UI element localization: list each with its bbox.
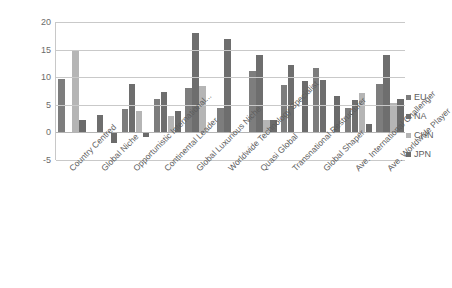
bar-eu <box>345 108 351 132</box>
bar-na <box>224 39 230 133</box>
bar-group <box>183 22 215 160</box>
bar-chn <box>359 93 365 132</box>
bar-na <box>383 55 389 133</box>
bar-group <box>374 22 406 160</box>
gridline-15 <box>56 50 405 51</box>
bar-eu <box>249 71 255 133</box>
legend-label: CHN <box>414 131 434 140</box>
bar-eu <box>122 109 128 132</box>
y-tick-label: 0 <box>46 128 51 137</box>
bar-jpn <box>270 120 276 132</box>
gridline-5 <box>56 105 405 106</box>
bar-jpn <box>366 124 372 133</box>
bar-eu <box>154 99 160 133</box>
bar-eu <box>58 79 64 132</box>
bar-chn <box>168 116 174 132</box>
bar-eu <box>185 88 191 133</box>
bar-jpn <box>175 111 181 132</box>
bar-na <box>129 84 135 132</box>
bar-chn <box>263 120 269 133</box>
bar-na <box>97 115 103 132</box>
y-tick-label: 10 <box>41 73 51 82</box>
bar-jpn <box>111 132 117 143</box>
bar-eu <box>217 108 223 132</box>
y-tick-label: 5 <box>46 100 51 109</box>
bar-group <box>247 22 279 160</box>
plot-area <box>55 22 405 160</box>
bar-na <box>192 33 198 132</box>
gridline-0 <box>56 132 405 133</box>
bar-na <box>161 92 167 133</box>
bar-jpn <box>79 120 85 133</box>
bar-group <box>279 22 311 160</box>
bar-chn <box>136 111 142 132</box>
y-tick-label: 15 <box>41 45 51 54</box>
y-tick-label: 20 <box>41 18 51 27</box>
legend-swatch-icon <box>406 114 411 119</box>
gridline-10 <box>56 77 405 78</box>
bar-eu <box>281 85 287 132</box>
legend-swatch-icon <box>406 95 411 100</box>
y-axis: 20151050-5 <box>20 22 51 160</box>
legend-swatch-icon <box>406 152 411 157</box>
legend-item[interactable]: NA <box>406 107 441 126</box>
bar-group <box>215 22 247 160</box>
bar-na <box>320 80 326 132</box>
y-tick-label: -5 <box>43 156 51 165</box>
bar-chn <box>199 86 205 133</box>
gridline--5 <box>56 160 405 161</box>
bar-group <box>311 22 343 160</box>
legend-label: EU <box>414 93 427 102</box>
bar-na <box>288 65 294 132</box>
bar-chn <box>72 50 78 133</box>
bar-group <box>120 22 152 160</box>
legend-item[interactable]: EU <box>406 88 441 107</box>
bar-group <box>151 22 183 160</box>
bar-jpn <box>334 96 340 132</box>
bar-group <box>56 22 88 160</box>
bar-na <box>256 55 262 132</box>
bar-group <box>88 22 120 160</box>
bar-group <box>342 22 374 160</box>
bar-eu <box>376 84 382 132</box>
legend-label: JPN <box>414 150 431 159</box>
legend-label: NA <box>414 112 427 121</box>
bar-jpn <box>302 81 308 132</box>
bar-groups <box>56 22 405 160</box>
legend-item[interactable]: CHN <box>406 126 441 145</box>
legend-item[interactable]: JPN <box>406 145 441 164</box>
chart-legend: EUNACHNJPN <box>406 88 441 164</box>
legend-swatch-icon <box>406 133 411 138</box>
gridline-20 <box>56 22 405 23</box>
bar-chn <box>390 103 396 133</box>
